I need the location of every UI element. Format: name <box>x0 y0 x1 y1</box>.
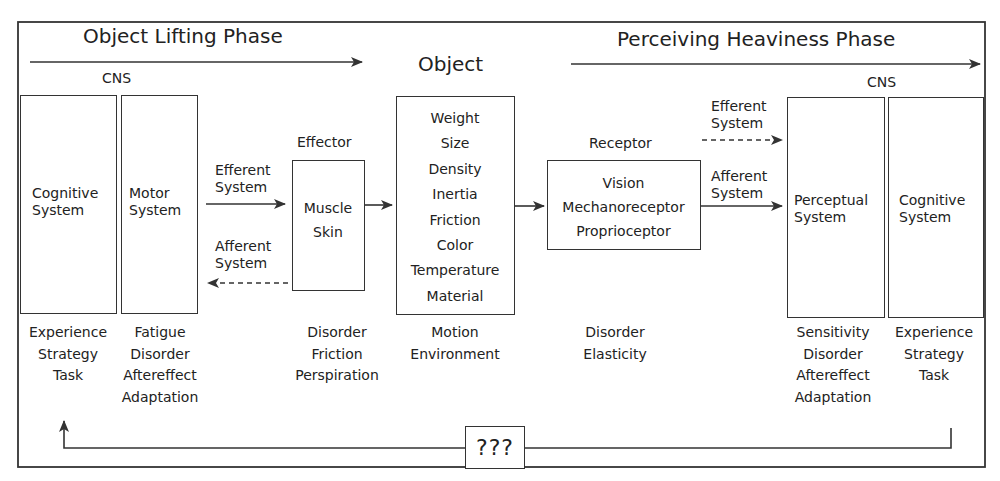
factor-item: Disorder <box>778 344 888 366</box>
left-cognitive-label-1: Cognitive <box>32 185 98 202</box>
right-cognitive-label-1: Cognitive <box>899 192 965 209</box>
factor-item: Disorder <box>565 322 665 344</box>
left-afferent-label: Afferent System <box>215 238 271 272</box>
factors-motor: Fatigue Disorder Aftereffect Adaptation <box>114 322 206 408</box>
left-cns-header: CNS <box>102 70 131 87</box>
left-efferent-label-1: Efferent <box>215 162 271 179</box>
factor-item: Experience <box>20 322 116 344</box>
factor-item: Experience <box>884 322 984 344</box>
right-afferent-label-2: System <box>711 185 767 202</box>
factor-item: Strategy <box>884 344 984 366</box>
right-cognitive-label-2: System <box>899 209 965 226</box>
right-afferent-label: Afferent System <box>711 168 767 202</box>
motor-label-1: Motor <box>129 185 181 202</box>
receptor-item-mechanoreceptor: Mechanoreceptor <box>548 195 699 219</box>
right-afferent-label-1: Afferent <box>711 168 767 185</box>
factors-left-cognitive: Experience Strategy Task <box>20 322 116 387</box>
left-afferent-label-1: Afferent <box>215 238 271 255</box>
factor-item: Fatigue <box>114 322 206 344</box>
right-efferent-label-2: System <box>711 115 767 132</box>
receptor-item-proprioceptor: Proprioceptor <box>548 219 699 243</box>
perceptual-system-box: Perceptual System <box>787 97 885 318</box>
object-attr-friction: Friction <box>397 208 513 233</box>
left-cognitive-label-2: System <box>32 202 98 219</box>
object-attr-weight: Weight <box>397 106 513 131</box>
factor-item: Adaptation <box>778 387 888 409</box>
effector-item-skin: Skin <box>293 220 363 244</box>
factors-right-cognitive: Experience Strategy Task <box>884 322 984 387</box>
factors-object: Motion Environment <box>400 322 510 365</box>
object-attr-density: Density <box>397 157 513 182</box>
motor-system-box: Motor System <box>121 95 198 314</box>
left-efferent-label: Efferent System <box>215 162 271 196</box>
factor-item: Adaptation <box>114 387 206 409</box>
perceptual-label-1: Perceptual <box>794 192 868 209</box>
left-efferent-label-2: System <box>215 179 271 196</box>
effector-box: Muscle Skin <box>292 160 365 291</box>
right-efferent-label: Efferent System <box>711 98 767 132</box>
factors-receptor: Disorder Elasticity <box>565 322 665 365</box>
perceiving-phase-title: Perceiving Heaviness Phase <box>617 27 895 51</box>
unknown-feedback-label: ??? <box>476 435 514 460</box>
factor-item: Environment <box>400 344 510 366</box>
right-cns-header: CNS <box>867 74 896 91</box>
factor-item: Disorder <box>114 344 206 366</box>
factors-perceptual: Sensitivity Disorder Aftereffect Adaptat… <box>778 322 888 408</box>
motor-label-2: System <box>129 202 181 219</box>
factor-item: Sensitivity <box>778 322 888 344</box>
factor-item: Task <box>20 365 116 387</box>
perceptual-label-2: System <box>794 209 868 226</box>
right-cognitive-system-box: Cognitive System <box>888 97 984 318</box>
left-afferent-label-2: System <box>215 255 271 272</box>
object-attr-material: Material <box>397 284 513 309</box>
factors-effector: Disorder Friction Perspiration <box>284 322 390 387</box>
factor-item: Disorder <box>284 322 390 344</box>
left-cognitive-system-box: Cognitive System <box>20 95 117 314</box>
factor-item: Motion <box>400 322 510 344</box>
feedback-line-right <box>524 428 951 448</box>
object-attr-temperature: Temperature <box>397 258 513 283</box>
effector-header: Effector <box>297 134 352 151</box>
factor-item: Elasticity <box>565 344 665 366</box>
receptor-header: Receptor <box>589 135 652 152</box>
object-box: Weight Size Density Inertia Friction Col… <box>396 96 515 315</box>
factor-item: Strategy <box>20 344 116 366</box>
factor-item: Aftereffect <box>114 365 206 387</box>
effector-item-muscle: Muscle <box>293 196 363 220</box>
factor-item: Friction <box>284 344 390 366</box>
factor-item: Perspiration <box>284 365 390 387</box>
feedback-line-left <box>64 421 465 448</box>
lifting-phase-title: Object Lifting Phase <box>83 24 283 48</box>
receptor-box: Vision Mechanoreceptor Proprioceptor <box>547 160 701 250</box>
unknown-feedback-box: ??? <box>465 426 525 469</box>
object-attr-inertia: Inertia <box>397 182 513 207</box>
right-efferent-label-1: Efferent <box>711 98 767 115</box>
receptor-item-vision: Vision <box>548 171 699 195</box>
object-attr-color: Color <box>397 233 513 258</box>
factor-item: Aftereffect <box>778 365 888 387</box>
object-attr-size: Size <box>397 131 513 156</box>
factor-item: Task <box>884 365 984 387</box>
object-title: Object <box>418 52 483 76</box>
